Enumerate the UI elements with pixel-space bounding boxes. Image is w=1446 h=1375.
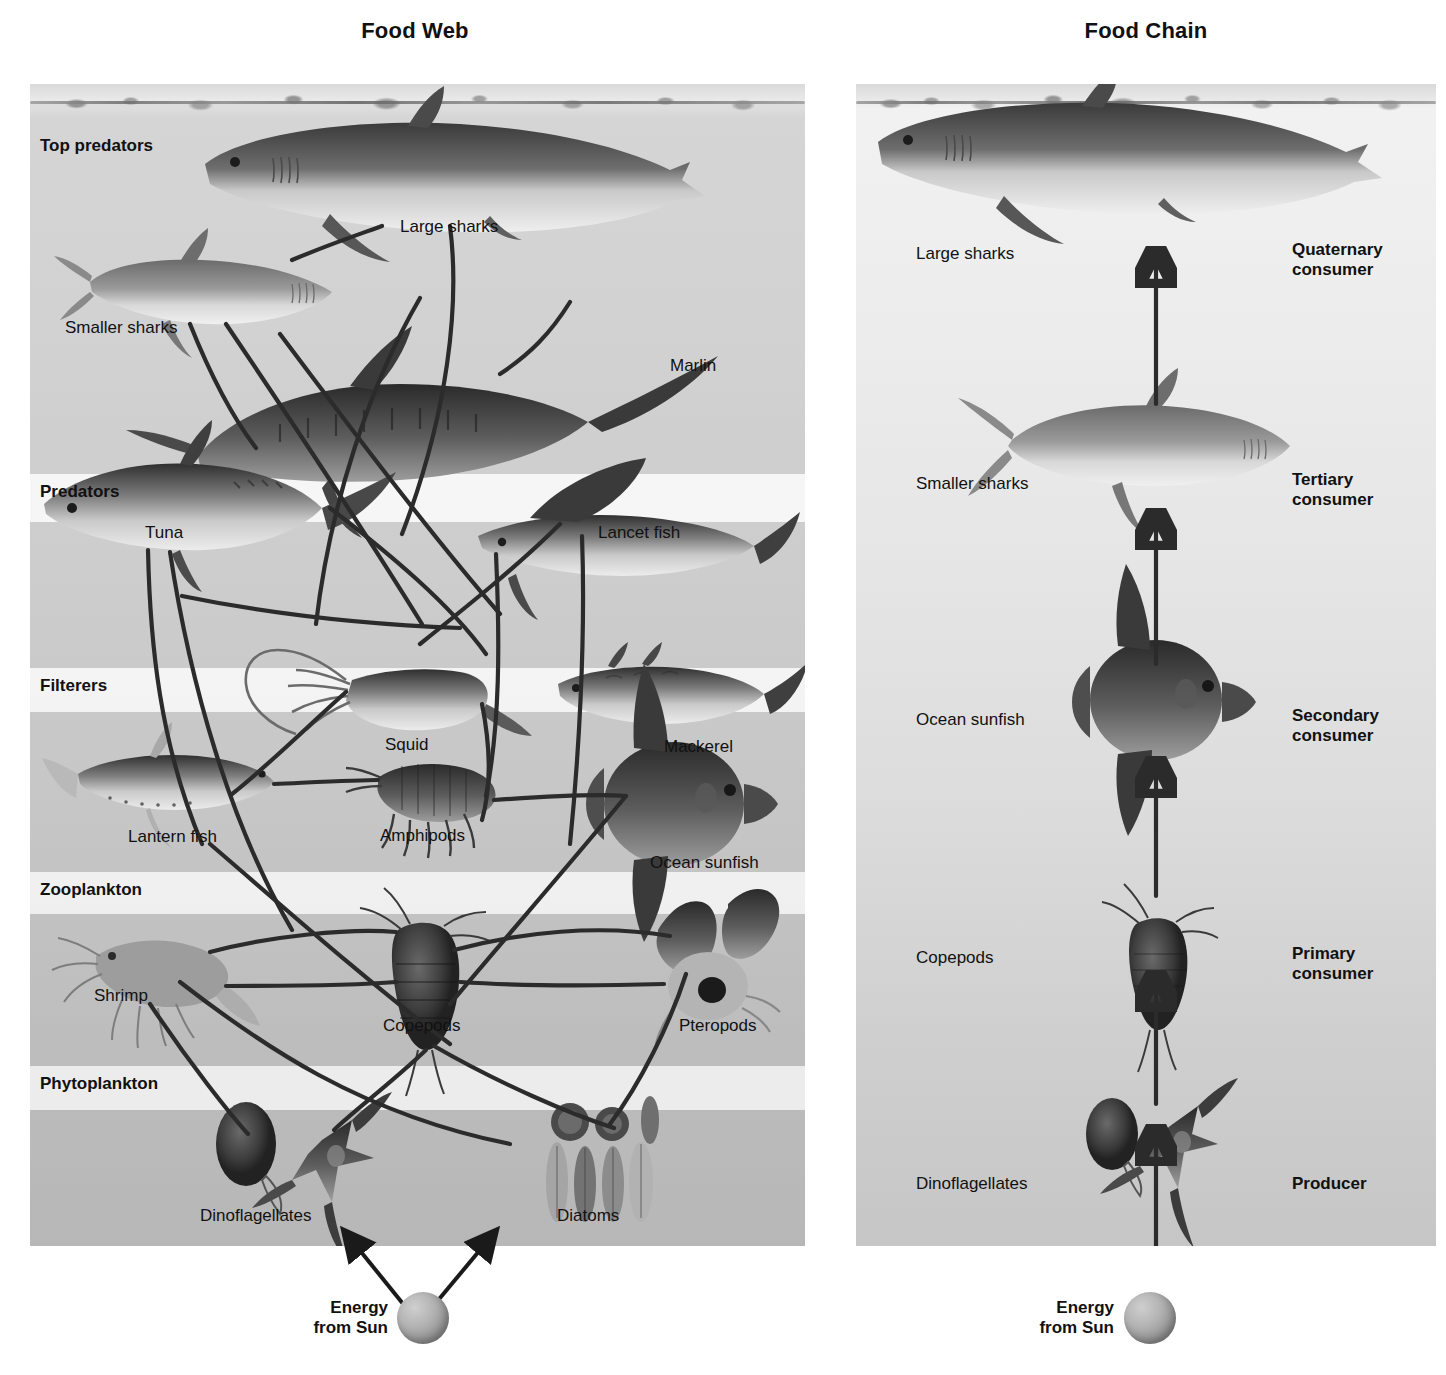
chain-organism-label-dinoflagellates: Dinoflagellates	[916, 1174, 1028, 1194]
chain-organism-label-ocean-sunfish: Ocean sunfish	[916, 710, 1025, 730]
chain-organism-label-large-sharks: Large sharks	[916, 244, 1014, 264]
food-chain-title: Food Chain	[846, 18, 1446, 44]
trophic-label-primary-consumer: Primary consumer	[1292, 944, 1373, 984]
chain-organism-label-copepods: Copepods	[916, 948, 994, 968]
chain-smaller-shark-illustration	[958, 368, 1290, 534]
food-web-panel: Food Web	[0, 0, 830, 1375]
chain-ocean-sunfish-illustration	[1072, 564, 1256, 836]
sun-icon	[397, 1292, 449, 1344]
trophic-label-secondary-consumer: Secondary consumer	[1292, 706, 1379, 746]
trophic-label-producer: Producer	[1292, 1174, 1367, 1194]
food-web-sun-rays	[0, 0, 830, 1375]
chain-large-shark-illustration	[878, 84, 1382, 244]
trophic-label-quaternary-consumer: Quaternary consumer	[1292, 240, 1383, 280]
food-chain-water-column: Large sharks Smaller sharks Ocean sunfis…	[856, 84, 1436, 1246]
trophic-label-tertiary-consumer: Tertiary consumer	[1292, 470, 1373, 510]
chain-copepod-illustration	[1102, 884, 1218, 1072]
energy-from-sun-label: Energy from Sun	[296, 1298, 388, 1339]
chain-energy-from-sun-label: Energy from Sun	[1022, 1298, 1114, 1339]
chain-dinoflagellates-illustration	[1086, 1078, 1238, 1246]
food-chain-panel: Food Chain	[846, 0, 1446, 1375]
chain-sun-icon	[1124, 1292, 1176, 1344]
chain-organism-label-smaller-sharks: Smaller sharks	[916, 474, 1028, 494]
